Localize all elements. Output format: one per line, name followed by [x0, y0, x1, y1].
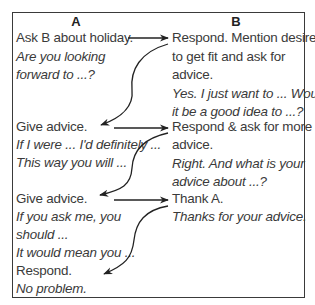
b-step1-instruction: Respond. Mention desire: [172, 30, 315, 46]
a-step1-phrase: Are you looking: [16, 49, 105, 65]
b-step1-phrase: Yes. I just want to ... Would: [172, 86, 315, 102]
a-step3-phrase: If you ask me, you: [16, 209, 121, 225]
a-step1-instruction: Ask B about holiday.: [16, 30, 133, 46]
b-step3-instruction: Thank A.: [172, 191, 223, 207]
a-step3-phrase: should ...: [16, 227, 68, 243]
b-step1-instruction: advice.: [172, 67, 213, 83]
b-step2-phrase: advice about ...?: [172, 174, 267, 190]
a-step3-phrase: It would mean you ...: [16, 245, 135, 261]
column-header-a: A: [66, 14, 86, 29]
a-step3-instruction: Give advice.: [16, 191, 87, 207]
a-step2-instruction: Give advice.: [16, 119, 87, 135]
b-step3-phrase: Thanks for your advice.: [172, 209, 307, 225]
a-step2-phrase: If I were ... I'd definitely ...: [16, 137, 161, 153]
b-step2-instruction: Respond & ask for more: [172, 119, 312, 135]
column-header-b: B: [226, 14, 246, 29]
b-step1-phrase: it be a good idea to ...?: [172, 104, 303, 120]
a-step4-phrase: No problem.: [16, 281, 87, 297]
a-step4-instruction: Respond.: [16, 263, 72, 279]
a-step1-phrase: forward to ...?: [16, 67, 95, 83]
b-step2-instruction: advice.: [172, 137, 213, 153]
a-step2-phrase: This way you will ...: [16, 155, 127, 171]
b-step2-phrase: Right. And what is your: [172, 156, 305, 172]
b-step1-instruction: to get fit and ask for: [172, 49, 285, 65]
